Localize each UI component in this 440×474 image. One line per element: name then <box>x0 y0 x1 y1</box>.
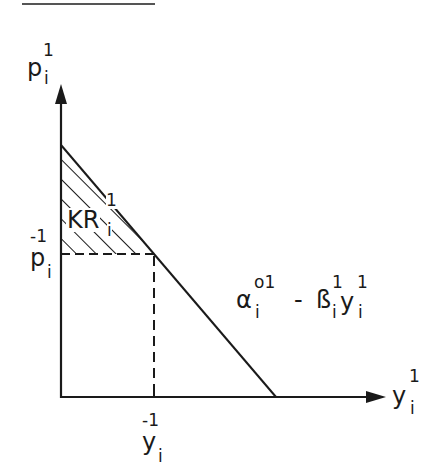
x-axis-symbol: y <box>392 384 406 408</box>
alpha-symbol: α <box>236 288 252 312</box>
consumer-rent-subscript: i <box>107 222 112 239</box>
y-axis-symbol: p <box>27 56 42 80</box>
price-mark-superscript: -1 <box>30 228 47 245</box>
price-mark-subscript: i <box>47 264 52 281</box>
consumer-rent-label: KR 1 i <box>66 198 136 243</box>
y-axis-superscript: 1 <box>43 42 54 59</box>
x-axis-label: y 1 i <box>392 378 432 423</box>
quantity-mark-symbol: y <box>142 430 156 454</box>
y-axis-subscript: i <box>44 70 49 87</box>
beta-subscript: i <box>332 304 337 321</box>
consumer-rent-symbol: KR <box>66 208 100 232</box>
demand-line <box>61 145 276 397</box>
price-mark-symbol: p <box>30 246 45 270</box>
price-mark-label: -1 p i <box>30 232 60 282</box>
quantity-symbol: y <box>340 290 354 314</box>
y-axis-label: p 1 i <box>27 50 57 95</box>
consumer-rent-superscript: 1 <box>106 192 117 209</box>
minus-sign: - <box>294 288 303 312</box>
quantity-mark-subscript: i <box>158 448 163 465</box>
x-axis-arrow-icon <box>366 391 386 403</box>
x-axis-superscript: 1 <box>409 368 420 385</box>
beta-symbol: ß <box>316 288 331 312</box>
quantity-mark-label: -1 y i <box>142 412 182 467</box>
quantity-superscript: 1 <box>357 274 368 291</box>
alpha-subscript: i <box>255 304 260 321</box>
quantity-mark-superscript: -1 <box>142 412 159 429</box>
x-axis-subscript: i <box>410 400 415 417</box>
quantity-subscript: i <box>358 304 363 321</box>
demand-equation: α o1 i - ß 1 i y 1 i <box>236 280 436 330</box>
alpha-superscript: o1 <box>254 274 275 291</box>
